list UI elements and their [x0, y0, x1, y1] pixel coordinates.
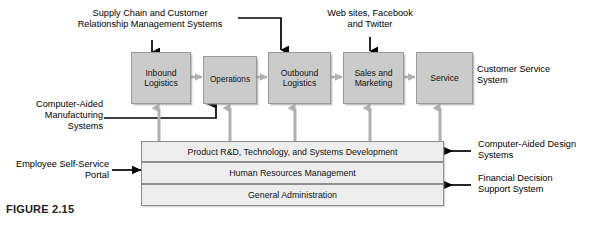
activity-box-sales-and-marketing[interactable]: Sales and Marketing: [343, 52, 404, 104]
activity-box-outbound-logistics[interactable]: Outbound Logistics: [268, 52, 331, 104]
annotation-computer-aided-manufacturing: Computer-Aided Manufacturing Systems: [10, 99, 103, 133]
annotation-computer-aided-design: Computer-Aided Design Systems: [478, 139, 603, 161]
figure-container: Inbound Logistics Operations Outbound Lo…: [0, 0, 607, 226]
annotation-supply-chain-crm: Supply Chain and Customer Relationship M…: [60, 8, 240, 30]
support-bar-human-resources[interactable]: Human Resources Management: [141, 162, 444, 184]
activity-box-service[interactable]: Service: [416, 52, 473, 104]
figure-caption: FIGURE 2.15: [6, 203, 74, 215]
support-bar-general-administration[interactable]: General Administration: [141, 184, 444, 206]
activity-box-operations[interactable]: Operations: [203, 56, 257, 104]
support-bar-product-rd[interactable]: Product R&D, Technology, and Systems Dev…: [141, 141, 444, 162]
arrow-supply-chain-to-outbound: [238, 18, 281, 50]
annotation-employee-self-service-portal: Employee Self-Service Portal: [5, 159, 109, 181]
annotation-customer-service-system: Customer Service System: [477, 64, 602, 86]
activity-box-inbound-logistics[interactable]: Inbound Logistics: [131, 52, 191, 104]
support-to-primary-arrows: [159, 108, 440, 141]
annotation-financial-decision-support: Financial Decision Support System: [478, 173, 603, 195]
annotation-web-social: Web sites, Facebook and Twitter: [305, 8, 435, 30]
